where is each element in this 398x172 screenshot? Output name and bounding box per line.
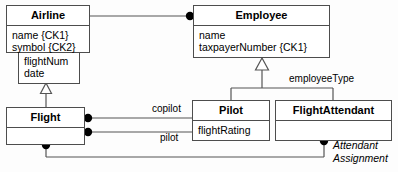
edge-flight-generalization — [41, 83, 52, 107]
attribute: date — [24, 67, 75, 79]
class-name-flightattendant: FlightAttendant — [276, 101, 391, 121]
class-name-employee: Employee — [194, 6, 329, 26]
edge-label-attendant-assignment-line2: Assignment — [333, 153, 388, 164]
edge-flight-copilot — [84, 114, 192, 122]
edge-label-pilot: pilot — [160, 132, 178, 143]
hollow-triangle-marker — [41, 83, 52, 94]
uml-class-diagram: flightNum date Airline name {CK1} symbol… — [0, 0, 398, 172]
class-box-flightattendant[interactable]: FlightAttendant — [275, 100, 392, 141]
attribute: symbol {CK2} — [12, 41, 85, 53]
class-attributes-airline: name {CK1} symbol {CK2} — [7, 26, 89, 56]
edge-label-employee-type: employeeType — [289, 73, 354, 84]
class-attributes-flight — [7, 128, 84, 146]
attribute: name {CK1} — [12, 29, 85, 41]
class-attributes-employee: name taxpayerNumber {CK1} — [194, 26, 329, 56]
attribute: taxpayerNumber {CK1} — [199, 41, 325, 53]
class-box-airline[interactable]: Airline name {CK1} symbol {CK2} — [6, 5, 90, 53]
edge-label-copilot: copilot — [152, 103, 181, 114]
attribute: flightNum — [24, 55, 75, 67]
class-box-flight[interactable]: Flight — [6, 107, 85, 145]
filled-dot-marker — [84, 128, 92, 136]
attribute: name — [199, 29, 325, 41]
class-attributes-pilot: flightRating — [193, 121, 269, 139]
class-box-employee[interactable]: Employee name taxpayerNumber {CK1} — [193, 5, 330, 58]
edge-airline-employee — [90, 12, 194, 20]
class-name-pilot: Pilot — [193, 101, 269, 121]
attribute: flightRating — [198, 124, 265, 136]
filled-dot-marker — [84, 114, 92, 122]
class-attributes-flightattendant — [276, 121, 391, 139]
class-name-flight: Flight — [7, 108, 84, 128]
class-name-airline: Airline — [7, 6, 89, 26]
edge-label-attendant-assignment-line1: Attendant — [333, 140, 378, 151]
hollow-triangle-marker — [256, 58, 269, 70]
class-box-pilot[interactable]: Pilot flightRating — [192, 100, 270, 141]
